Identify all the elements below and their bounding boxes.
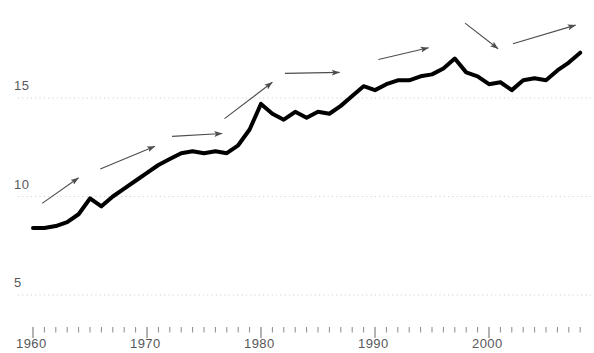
trend-arrow-8 [513, 25, 576, 44]
trend-arrows [42, 23, 576, 203]
line-chart: 15105 19601970198019902000 [0, 0, 594, 353]
trend-arrow-2 [100, 146, 155, 169]
trend-arrow-4 [225, 82, 273, 118]
chart-canvas [0, 0, 594, 353]
x-axis-tick-label: 1960 [16, 336, 47, 351]
y-axis-tick-label: 10 [14, 177, 29, 192]
gridlines [18, 98, 594, 295]
trend-arrow-1 [42, 178, 78, 204]
y-axis-tick-label: 15 [14, 78, 29, 93]
x-axis-tick-label: 1970 [130, 336, 161, 351]
x-axis-tick-label: 1990 [358, 336, 389, 351]
trend-arrow-7 [465, 23, 498, 49]
y-axis-tick-label: 5 [14, 275, 22, 290]
x-axis-tick-label: 1980 [244, 336, 275, 351]
trend-arrow-3 [172, 133, 222, 136]
x-axis-tick-label: 2000 [472, 336, 503, 351]
trend-arrow-5 [285, 72, 340, 73]
trend-arrow-6 [378, 48, 428, 60]
data-series-line [33, 53, 580, 228]
